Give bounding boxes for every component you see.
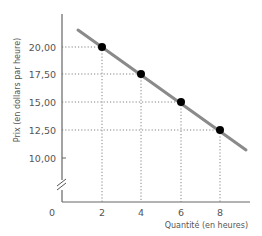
y-tick-label: 20,00 [29, 42, 56, 53]
axis-break-icon [57, 179, 66, 190]
x-tick-label: 8 [217, 207, 223, 218]
origin-label: 0 [49, 207, 55, 218]
data-point [98, 43, 106, 51]
x-tick-label: 2 [99, 207, 105, 218]
demand-chart: 20,00 17,50 15,00 12,50 10,00 0 2 4 6 8 … [0, 0, 262, 236]
y-tick-label: 15,00 [29, 97, 56, 108]
y-axis-title: Prix (en dollars par heure) [13, 38, 22, 142]
x-axis-title: Quantité (en heures) [165, 220, 248, 230]
x-tick-label: 6 [178, 207, 184, 218]
y-tick-label: 12,50 [29, 125, 56, 136]
y-tick-label: 17,50 [29, 69, 56, 80]
data-point [177, 98, 185, 106]
data-point [216, 126, 224, 134]
data-point [137, 70, 145, 78]
y-tick-label: 10,00 [29, 153, 56, 164]
x-tick-label: 4 [138, 207, 144, 218]
